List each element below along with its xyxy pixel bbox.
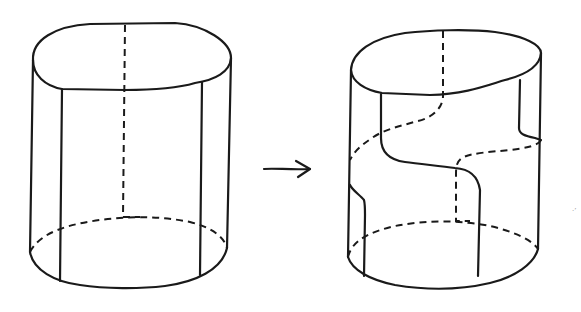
right-front-seam-right-top <box>519 80 541 140</box>
arrow-shaft <box>264 169 310 170</box>
transform-arrow[interactable] <box>264 161 310 177</box>
right-front-seam-left-bottom <box>350 185 365 276</box>
diagram-canvas <box>0 0 581 312</box>
left-front-seam-2 <box>200 82 202 275</box>
right-bottom-back-arc <box>348 222 538 258</box>
right-outer-right-edge <box>538 53 541 249</box>
left-cylinder <box>30 23 231 288</box>
left-back-seam <box>123 25 140 217</box>
left-outer-left-edge <box>30 60 33 252</box>
stray-mark: ·’ <box>572 207 576 215</box>
right-top-ellipse <box>351 30 541 95</box>
left-top-ellipse <box>33 23 231 90</box>
right-cylinder <box>348 30 541 288</box>
right-front-seam-s-curve <box>381 94 480 276</box>
left-outer-right-edge <box>227 58 231 248</box>
right-bottom-front-arc <box>348 249 538 289</box>
left-front-seam-1 <box>60 89 62 281</box>
right-back-seam-lower <box>456 140 541 221</box>
right-outer-left-edge <box>348 70 351 257</box>
